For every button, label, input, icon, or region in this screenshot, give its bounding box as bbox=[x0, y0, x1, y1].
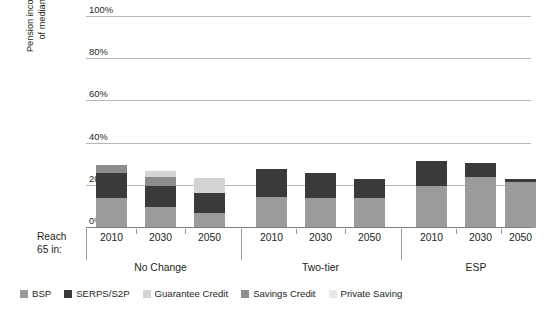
bar-segment-serps-s2p bbox=[194, 193, 225, 213]
bar-no-change-2030[interactable] bbox=[145, 17, 176, 228]
bar-esp-2030[interactable] bbox=[465, 17, 496, 228]
x-axis-baseline bbox=[86, 227, 531, 228]
bar-segment-serps-s2p bbox=[145, 186, 176, 207]
bar-two-tier-2030[interactable] bbox=[305, 17, 336, 228]
bar-two-tier-2010[interactable] bbox=[256, 17, 287, 228]
bar-segment-serps-s2p bbox=[465, 163, 496, 178]
bar-segment-serps-s2p bbox=[505, 179, 536, 181]
bar-segment-serps-s2p bbox=[416, 161, 447, 186]
x-tick-label-8: 2050 bbox=[497, 232, 545, 243]
bar-segment-bsp bbox=[256, 197, 287, 228]
x-tick-label-5: 2050 bbox=[346, 232, 394, 243]
x-tick-label-6: 2010 bbox=[408, 232, 456, 243]
x-tick-label-2: 2050 bbox=[186, 232, 234, 243]
bar-segment-bsp bbox=[96, 198, 127, 228]
x-tick-label-0: 2010 bbox=[88, 232, 136, 243]
legend-label: Private Saving bbox=[341, 288, 403, 299]
legend-item-savings-credit[interactable]: Savings Credit bbox=[241, 288, 315, 299]
legend-label: SERPS/S2P bbox=[76, 288, 129, 299]
y-axis-title: Pension income as percentage of median e… bbox=[16, 0, 56, 84]
group-label-esp: ESP bbox=[396, 262, 555, 273]
bar-segment-guarantee-credit bbox=[194, 178, 225, 193]
group-label-two-tier: Two-tier bbox=[241, 262, 401, 273]
x-tick-label-3: 2010 bbox=[248, 232, 296, 243]
legend-item-guarantee-credit[interactable]: Guarantee Credit bbox=[143, 288, 229, 299]
bar-segment-serps-s2p bbox=[354, 179, 385, 198]
legend-item-private-saving[interactable]: Private Saving bbox=[329, 288, 403, 299]
bar-segment-serps-s2p bbox=[256, 169, 287, 197]
legend-label: Savings Credit bbox=[253, 288, 315, 299]
legend-label: BSP bbox=[32, 288, 51, 299]
x-tick-label-1: 2030 bbox=[137, 232, 185, 243]
legend-swatch-icon bbox=[241, 290, 249, 298]
legend-label: Guarantee Credit bbox=[155, 288, 229, 299]
plot-area: 100%80%60%40%20%0% bbox=[86, 16, 531, 228]
legend-swatch-icon bbox=[329, 290, 337, 298]
bar-segment-bsp bbox=[145, 207, 176, 228]
legend-item-bsp[interactable]: BSP bbox=[20, 288, 51, 299]
legend-item-serps-s2p[interactable]: SERPS/S2P bbox=[64, 288, 129, 299]
bar-segment-bsp bbox=[194, 213, 225, 228]
group-separator-1 bbox=[401, 229, 402, 260]
bar-segment-serps-s2p bbox=[96, 173, 127, 198]
bar-no-change-2010[interactable] bbox=[96, 17, 127, 228]
bar-segment-guarantee-credit bbox=[145, 171, 176, 177]
bar-esp-2050[interactable] bbox=[505, 17, 536, 228]
bar-segment-serps-s2p bbox=[305, 173, 336, 198]
bar-two-tier-2050[interactable] bbox=[354, 17, 385, 228]
bar-segment-bsp bbox=[416, 186, 447, 228]
group-separator-0 bbox=[241, 229, 242, 260]
bar-segment-bsp bbox=[354, 198, 385, 228]
group-label-no-change: No Change bbox=[81, 262, 241, 273]
y-tick-label: 100% bbox=[88, 4, 113, 15]
bar-segment-bsp bbox=[505, 182, 536, 228]
bar-esp-2010[interactable] bbox=[416, 17, 447, 228]
bar-no-change-2050[interactable] bbox=[194, 17, 225, 228]
legend-swatch-icon bbox=[64, 290, 72, 298]
bar-segment-savings-credit bbox=[145, 177, 176, 185]
bar-segment-bsp bbox=[465, 177, 496, 228]
reach-age-label: Reach 65 in: bbox=[37, 231, 87, 256]
legend-swatch-icon bbox=[20, 290, 28, 298]
bar-segment-savings-credit bbox=[96, 165, 127, 173]
legend-swatch-icon bbox=[143, 290, 151, 298]
stacked-bar-chart: Pension income as percentage of median e… bbox=[0, 0, 555, 314]
bar-segment-bsp bbox=[305, 198, 336, 228]
x-tick-label-4: 2030 bbox=[297, 232, 345, 243]
chart-legend: BSPSERPS/S2PGuarantee CreditSavings Cred… bbox=[20, 288, 402, 299]
